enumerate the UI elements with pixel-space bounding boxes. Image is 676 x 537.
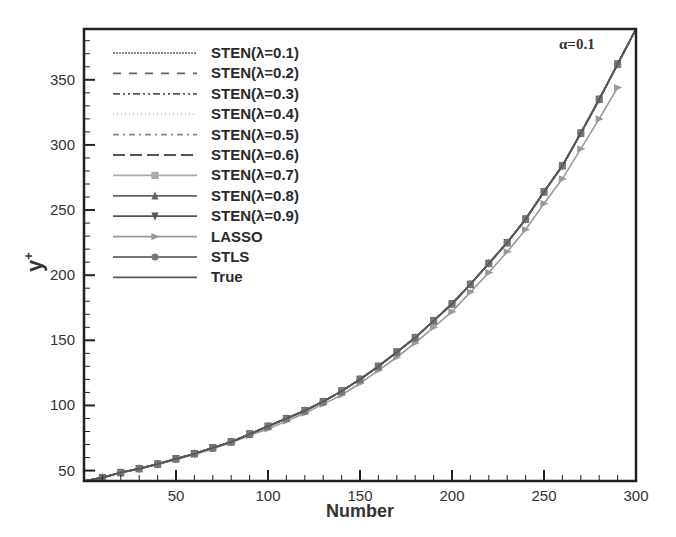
legend-item: STEN(λ=0.1)	[113, 44, 299, 61]
y-tick-label: 250	[50, 201, 75, 218]
x-tick-label: 50	[168, 487, 185, 504]
legend-label: STEN(λ=0.8)	[211, 187, 299, 204]
legend-label: True	[211, 268, 243, 285]
legend: STEN(λ=0.1)STEN(λ=0.2)STEN(λ=0.3)STEN(λ=…	[113, 44, 299, 285]
y-axis-ticks: 50100150200250300350	[50, 41, 95, 479]
y-tick-label: 150	[50, 331, 75, 348]
y-tick-label: 100	[50, 396, 75, 413]
legend-item: LASSO	[113, 228, 263, 245]
y-tick-label: 200	[50, 266, 75, 283]
legend-item: STEN(λ=0.7)	[113, 166, 299, 183]
svg-text:y+: y+	[21, 252, 47, 272]
plot-curves	[84, 29, 636, 482]
legend-label: STEN(λ=0.2)	[211, 64, 299, 81]
x-axis-title: Number	[326, 501, 394, 521]
x-tick-label: 300	[623, 487, 648, 504]
x-tick-label: 100	[255, 487, 280, 504]
legend-label: STEN(λ=0.1)	[211, 44, 299, 61]
x-tick-label: 250	[531, 487, 556, 504]
legend-item: STEN(λ=0.3)	[113, 85, 299, 102]
y-axis-title: y+	[21, 252, 47, 272]
series-stls	[84, 29, 636, 481]
series-sten-0-4-	[84, 29, 636, 481]
legend-item: STEN(λ=0.8)	[113, 187, 299, 204]
series-sten-0-8-	[84, 29, 636, 481]
series-sten-0-3-	[84, 29, 636, 481]
series-sten-0-6-	[84, 29, 636, 481]
legend-label: LASSO	[211, 228, 263, 245]
line-chart: 50100150200250300 50100150200250300350 N…	[0, 0, 676, 537]
series-true	[84, 29, 636, 481]
legend-item: STEN(λ=0.9)	[113, 207, 299, 224]
x-axis-ticks: 50100150200250300	[102, 470, 648, 504]
legend-item: STEN(λ=0.2)	[113, 64, 299, 81]
legend-item: STEN(λ=0.5)	[113, 126, 299, 143]
legend-label: STEN(λ=0.6)	[211, 146, 299, 163]
legend-label: STLS	[211, 248, 249, 265]
x-tick-label: 200	[439, 487, 464, 504]
series-lasso	[84, 84, 622, 481]
legend-item: True	[113, 268, 243, 285]
plot-frame	[84, 29, 636, 481]
y-tick-label: 350	[50, 71, 75, 88]
series-sten-0-2-	[84, 29, 636, 481]
legend-label: STEN(λ=0.3)	[211, 85, 299, 102]
legend-item: STEN(λ=0.4)	[113, 105, 299, 122]
y-tick-label: 300	[50, 136, 75, 153]
series-sten-0-5-	[84, 29, 636, 481]
legend-item: STLS	[113, 248, 249, 265]
alpha-annotation: α=0.1	[559, 36, 595, 52]
legend-label: STEN(λ=0.9)	[211, 207, 299, 224]
series-sten-0-9-	[84, 29, 636, 482]
legend-label: STEN(λ=0.5)	[211, 126, 299, 143]
legend-label: STEN(λ=0.7)	[211, 166, 299, 183]
legend-item: STEN(λ=0.6)	[113, 146, 299, 163]
legend-label: STEN(λ=0.4)	[211, 105, 299, 122]
series-sten-0-7-	[84, 29, 636, 481]
series-sten-0-1-	[84, 29, 636, 481]
y-tick-label: 50	[58, 462, 75, 479]
